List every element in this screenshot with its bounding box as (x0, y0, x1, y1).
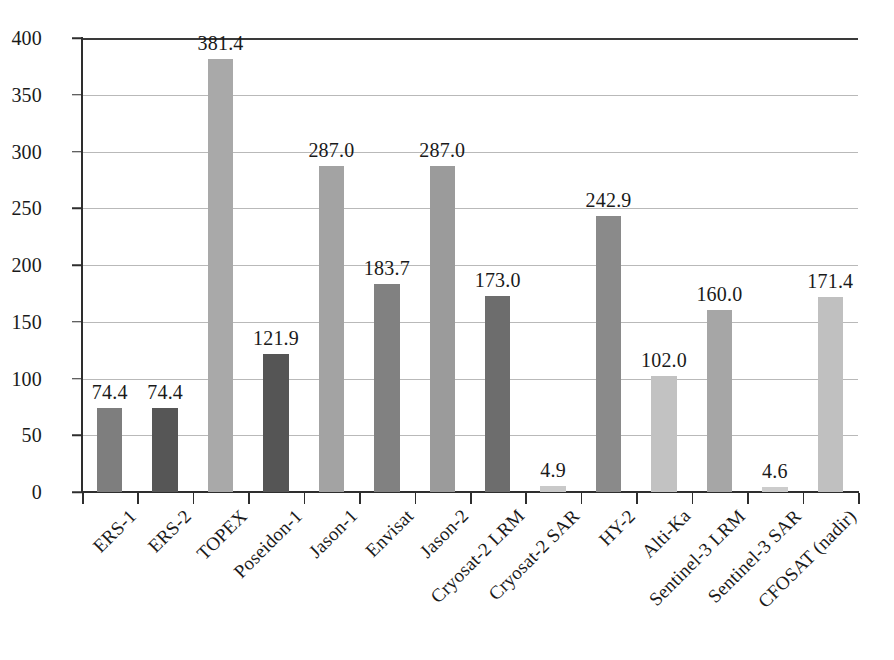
gridline (82, 95, 858, 96)
y-axis-tick-mark (72, 94, 82, 96)
x-axis-label: Jason-1 (306, 506, 361, 561)
bar-value-label: 74.4 (147, 382, 183, 402)
x-axis-tick-mark (137, 493, 139, 504)
y-axis-tick-mark (72, 37, 82, 39)
x-axis-tick-mark (470, 493, 472, 504)
bar-chart: 050100150200250300350400 74.474.4381.412… (0, 0, 894, 660)
bar (651, 376, 676, 492)
bar (374, 284, 399, 492)
y-axis-tick-label: 300 (11, 142, 42, 162)
x-axis-tick-mark (636, 493, 638, 504)
bar (152, 408, 177, 492)
y-axis-tick-label: 50 (22, 425, 42, 445)
x-axis-tick-mark (304, 493, 306, 504)
x-axis-label: ERS-2 (144, 506, 194, 556)
bar (762, 487, 787, 492)
bar-value-label: 183.7 (364, 258, 410, 278)
y-axis-tick-label: 250 (11, 198, 42, 218)
bar-value-label: 173.0 (475, 270, 521, 290)
bar-value-label: 121.9 (253, 328, 299, 348)
x-axis-label: Jason-2 (417, 506, 472, 561)
y-axis-tick-label: 350 (11, 85, 42, 105)
bar-value-label: 74.4 (92, 382, 128, 402)
bar (485, 296, 510, 492)
bar-value-label: 242.9 (586, 190, 632, 210)
x-axis-label: CFOSAT (nadir) (754, 506, 859, 611)
y-axis-tick-mark (72, 435, 82, 437)
x-axis-tick-mark (581, 493, 583, 504)
x-axis-tick-mark (692, 493, 694, 504)
bar (263, 354, 288, 492)
y-axis-tick-mark (72, 321, 82, 323)
bar-value-label: 160.0 (696, 284, 742, 304)
bar-value-label: 381.4 (198, 33, 244, 53)
bar (430, 166, 455, 492)
bar-value-label: 102.0 (641, 350, 687, 370)
bar-value-label: 4.9 (540, 460, 566, 480)
x-axis-tick-mark (525, 493, 527, 504)
x-axis-tick-mark (82, 493, 84, 504)
gridline (82, 322, 858, 323)
y-axis-tick-label: 400 (11, 28, 42, 48)
bar (707, 310, 732, 492)
y-axis-tick-label: 150 (11, 312, 42, 332)
y-axis-tick-label: 100 (11, 369, 42, 389)
gridline (82, 435, 858, 436)
y-axis-tick-label: 200 (11, 255, 42, 275)
gridline (82, 265, 858, 266)
y-axis-tick-mark (72, 491, 82, 493)
x-axis-tick-mark (248, 493, 250, 504)
plot-area (82, 38, 858, 492)
bar (208, 59, 233, 492)
bar (540, 486, 565, 492)
x-axis-label: ERS-1 (89, 506, 139, 556)
y-axis-tick-mark (72, 378, 82, 380)
x-axis-tick-mark (803, 493, 805, 504)
bar (818, 297, 843, 492)
bar-value-label: 4.6 (762, 461, 788, 481)
bar (319, 166, 344, 492)
x-axis-tick-mark (747, 493, 749, 504)
bar (97, 408, 122, 492)
gridline (82, 208, 858, 209)
x-axis-label: Envisat (362, 506, 416, 560)
y-axis-tick-mark (72, 264, 82, 266)
y-axis-tick-label: 0 (32, 482, 42, 502)
x-axis-tick-mark (359, 493, 361, 504)
y-axis-tick-mark (72, 151, 82, 153)
bar (596, 216, 621, 492)
gridline (82, 379, 858, 380)
gridline (82, 152, 858, 153)
x-axis-tick-mark (858, 493, 860, 504)
bar-value-label: 171.4 (807, 271, 853, 291)
x-axis-label: HY-2 (595, 506, 638, 549)
bar-value-label: 287.0 (419, 140, 465, 160)
bar-value-label: 287.0 (308, 140, 354, 160)
x-axis-tick-mark (415, 493, 417, 504)
x-axis-label: Sentinel-3 LRM (646, 506, 749, 609)
x-axis-tick-mark (193, 493, 195, 504)
y-axis-tick-mark (72, 208, 82, 210)
